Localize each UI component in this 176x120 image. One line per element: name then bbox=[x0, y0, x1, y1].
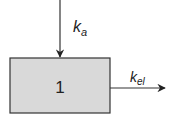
compartment-number: 1 bbox=[55, 78, 64, 97]
compartment-diagram: ka 1 kel bbox=[0, 0, 176, 120]
output-rate-label: kel bbox=[130, 69, 146, 87]
input-rate-label: ka bbox=[73, 18, 87, 38]
